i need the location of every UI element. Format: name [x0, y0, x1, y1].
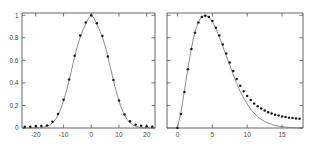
right-plot-panel: 051015: [0, 0, 319, 150]
data-point: [281, 115, 284, 118]
model-curve: [170, 15, 303, 128]
figure-canvas: -20-100102000.20.40.60.81 051015: [0, 0, 319, 150]
data-point: [204, 15, 207, 18]
data-point: [180, 113, 183, 116]
data-point: [256, 105, 259, 108]
data-point: [187, 68, 190, 71]
data-point: [190, 48, 193, 51]
data-point: [284, 116, 287, 119]
data-point: [249, 99, 252, 102]
data-point: [211, 20, 214, 23]
data-point: [253, 102, 256, 105]
data-point: [183, 91, 186, 94]
x-tick-label: 0: [176, 131, 180, 138]
plot-group: 051015: [167, 13, 303, 138]
x-tick-label: 5: [211, 131, 215, 138]
data-point: [239, 84, 242, 87]
data-point: [274, 113, 277, 116]
data-point-group: [176, 15, 301, 130]
data-point: [197, 21, 200, 24]
x-tick-label: 10: [244, 131, 252, 138]
data-point: [277, 114, 280, 117]
data-point: [218, 34, 221, 37]
data-point: [208, 16, 211, 19]
data-point: [288, 116, 291, 119]
data-point: [222, 43, 225, 46]
data-point: [176, 127, 179, 130]
data-point: [263, 109, 266, 112]
data-point: [298, 118, 301, 121]
data-point: [201, 16, 204, 19]
data-point: [267, 111, 270, 114]
data-point: [246, 95, 249, 98]
x-tick-label: 15: [278, 131, 286, 138]
data-point: [260, 107, 263, 110]
data-point: [295, 117, 298, 120]
data-point: [215, 26, 218, 29]
data-point: [229, 61, 232, 64]
data-point: [235, 78, 238, 81]
data-point: [232, 70, 235, 73]
data-point: [225, 52, 228, 55]
data-point: [242, 90, 245, 93]
data-point: [194, 31, 197, 34]
data-point: [291, 117, 294, 120]
data-point: [270, 112, 273, 115]
